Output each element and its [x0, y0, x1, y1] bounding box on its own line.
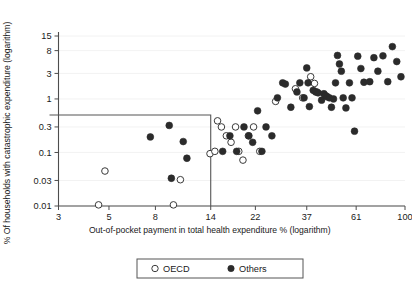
x-tick-label: 8	[153, 212, 158, 222]
data-point-others	[389, 43, 396, 50]
data-point-others	[259, 148, 266, 155]
chart-figure: 0.010.030.10.31381535814223761100 Out-of…	[0, 0, 412, 290]
data-point-others	[274, 94, 281, 101]
data-point-oecd	[214, 118, 221, 125]
data-point-others	[282, 81, 289, 88]
legend-marker-others	[228, 265, 234, 271]
data-point-others	[241, 124, 248, 131]
data-point-others	[227, 132, 234, 139]
data-point-others	[249, 139, 256, 146]
data-point-oecd	[177, 176, 184, 183]
data-point-others	[303, 65, 310, 72]
data-point-oecd	[95, 202, 102, 209]
data-point-others	[183, 155, 190, 162]
data-point-others	[301, 94, 308, 101]
y-tick-label: 8	[46, 46, 51, 56]
data-point-others	[334, 52, 341, 59]
data-point-others	[366, 78, 373, 85]
y-tick-label: 15	[41, 31, 51, 41]
legend-marker-oecd	[152, 265, 158, 271]
data-point-others	[263, 124, 270, 131]
data-point-others	[168, 175, 175, 182]
data-point-others	[330, 96, 337, 103]
y-tick-label: 3	[46, 69, 51, 79]
data-point-others	[358, 65, 365, 72]
y-axis-title: % Of households with catastrophic expend…	[2, 22, 12, 245]
data-point-others	[306, 103, 313, 110]
data-point-others	[349, 94, 356, 101]
data-point-others	[384, 78, 391, 85]
data-point-others	[351, 128, 358, 135]
legend-label-others: Others	[239, 264, 267, 274]
data-point-others	[305, 79, 312, 86]
data-point-others	[254, 107, 261, 114]
data-point-oecd	[218, 124, 225, 131]
data-point-others	[180, 138, 187, 145]
chart-legend: OECDOthers	[137, 259, 303, 278]
legend-label-oecd: OECD	[163, 264, 190, 274]
data-point-others	[332, 79, 339, 86]
y-tick-label: 0.01	[34, 201, 52, 211]
data-point-others	[338, 68, 345, 75]
data-point-others	[398, 73, 405, 80]
data-point-others	[245, 132, 252, 139]
y-tick-label: 0.3	[39, 122, 52, 132]
data-point-others	[328, 104, 335, 111]
data-point-others	[343, 105, 350, 112]
data-point-others	[219, 148, 226, 155]
data-point-others	[346, 79, 353, 86]
data-point-others	[166, 122, 173, 129]
data-point-others	[147, 134, 154, 141]
data-point-oecd	[232, 124, 239, 131]
data-point-oecd	[240, 157, 247, 164]
data-point-others	[233, 148, 240, 155]
data-points	[95, 43, 404, 208]
data-point-oecd	[311, 80, 318, 87]
data-point-others	[374, 68, 381, 75]
data-point-others	[296, 79, 303, 86]
x-axis-title: Out-of-pocket payment in total health ex…	[89, 225, 331, 235]
x-tick-label: 5	[106, 212, 111, 222]
scatter-plot-canvas: 0.010.030.10.31381535814223761100 Out-of…	[0, 0, 412, 290]
x-tick-label: 61	[351, 212, 361, 222]
data-point-oecd	[250, 124, 257, 131]
y-tick-label: 0.03	[34, 176, 52, 186]
x-tick-label: 14	[206, 212, 216, 222]
data-point-others	[393, 58, 400, 65]
y-tick-label: 1	[46, 94, 51, 104]
data-point-others	[336, 61, 343, 68]
data-point-others	[371, 54, 378, 61]
data-point-others	[287, 104, 294, 111]
legend-border	[137, 259, 303, 278]
grid-lines	[59, 36, 406, 206]
x-tick-label: 37	[302, 212, 312, 222]
data-point-oecd	[170, 202, 177, 209]
plot-axes	[55, 32, 406, 210]
y-tick-label: 0.1	[39, 148, 52, 158]
data-point-others	[354, 53, 361, 60]
x-tick-label: 22	[250, 212, 260, 222]
data-point-oecd	[228, 139, 235, 146]
data-point-others	[294, 89, 301, 96]
data-point-others	[380, 52, 387, 59]
data-point-oecd	[212, 148, 219, 155]
data-point-others	[340, 94, 347, 101]
x-tick-label: 100	[397, 212, 412, 222]
data-point-oecd	[102, 168, 109, 175]
data-point-others	[268, 132, 275, 139]
x-tick-label: 3	[56, 212, 61, 222]
data-point-oecd	[307, 73, 314, 80]
